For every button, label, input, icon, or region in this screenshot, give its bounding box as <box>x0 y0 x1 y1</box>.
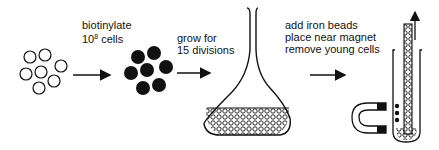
flask <box>204 8 290 135</box>
unlabeled-cells-group <box>20 49 67 94</box>
separate-label: add iron beads place near magnet remove … <box>285 20 380 55</box>
magnet <box>352 103 386 133</box>
biotinylated-cells-group <box>124 46 173 95</box>
biotinylate-label: biotinylate 108 cells <box>82 20 132 45</box>
grow-label: grow for 15 divisions <box>177 33 234 56</box>
test-tube <box>393 12 422 142</box>
